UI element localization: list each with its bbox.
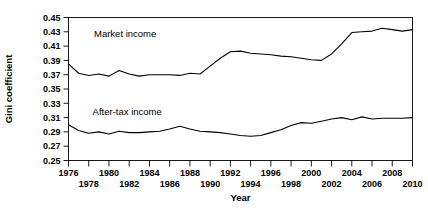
y-axis-tick-label: 0.25 <box>43 156 61 166</box>
x-axis-tick-label: 1982 <box>119 179 139 189</box>
chart-canvas: 0.450.430.410.390.370.350.330.310.290.27… <box>0 0 428 208</box>
x-axis-tick-label: 1994 <box>241 179 261 189</box>
x-axis-tick-label: 1998 <box>281 179 301 189</box>
plot-area-frame <box>69 18 413 161</box>
x-axis-title: Year <box>230 192 250 203</box>
x-axis-tick-label: 2010 <box>402 179 422 189</box>
y-axis-tick-label: 0.35 <box>43 84 61 94</box>
x-axis-tick-label: 2000 <box>301 168 321 178</box>
y-axis-tick-label: 0.33 <box>43 99 61 109</box>
x-axis-tick-label: 2008 <box>382 168 402 178</box>
series-line-after-tax-income <box>69 117 413 136</box>
y-axis-tick-label: 0.29 <box>43 127 61 137</box>
series-annotation: Market income <box>94 28 156 39</box>
y-axis-tick-label: 0.43 <box>43 27 61 37</box>
y-axis-tick-label: 0.37 <box>43 70 61 80</box>
y-axis-tick-label: 0.39 <box>43 56 61 66</box>
series-annotation: After-tax income <box>93 106 162 117</box>
y-axis-title: Gini coefficient <box>3 54 14 123</box>
x-axis-tick-label: 1986 <box>160 179 180 189</box>
y-axis-tick-label: 0.31 <box>43 113 61 123</box>
gini-coefficient-line-chart: 0.450.430.410.390.370.350.330.310.290.27… <box>0 0 428 208</box>
x-axis-tick-label: 1976 <box>58 168 78 178</box>
x-axis-tick-label: 1978 <box>79 179 99 189</box>
x-axis-tick-label: 2002 <box>322 179 342 189</box>
x-axis-tick-label: 1984 <box>139 168 159 178</box>
x-axis-tick-label: 1980 <box>99 168 119 178</box>
y-axis-tick-label: 0.45 <box>43 13 61 23</box>
x-axis-tick-label: 1988 <box>180 168 200 178</box>
y-axis-tick-label: 0.27 <box>43 141 61 151</box>
x-axis-tick-label: 2004 <box>342 168 362 178</box>
x-axis-tick-label: 2006 <box>362 179 382 189</box>
x-axis-tick-label: 1996 <box>261 168 281 178</box>
y-axis-tick-label: 0.41 <box>43 41 61 51</box>
x-axis-tick-label: 1992 <box>220 168 240 178</box>
x-axis-tick-label: 1990 <box>200 179 220 189</box>
